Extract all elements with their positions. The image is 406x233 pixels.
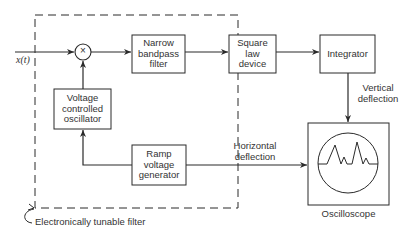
square-law-label: Square law device <box>229 35 276 73</box>
ramp-to-vco-line <box>83 130 132 165</box>
bandpass-filter-label: Narrow bandpass filter <box>132 35 185 73</box>
tunable-filter-label: Electronically tunable filter <box>35 217 145 228</box>
multiplier-symbol: × <box>78 46 88 57</box>
group-label-pointer <box>25 209 34 223</box>
horizontal-deflection-label: Horizontal deflection <box>225 141 285 162</box>
oscilloscope-label: Oscilloscope <box>308 209 389 220</box>
ramp-generator-label: Ramp voltage generator <box>132 145 186 185</box>
vertical-deflection-label: Vertical deflection <box>350 83 406 104</box>
vco-label: Voltage controlled oscillator <box>54 89 111 129</box>
integrator-label: Integrator <box>320 35 375 73</box>
input-signal-label: x(t) <box>16 55 30 66</box>
